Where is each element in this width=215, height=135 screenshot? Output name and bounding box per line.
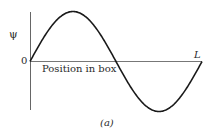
x-axis-label: Position in box — [42, 64, 116, 74]
y-axis-label: ψ — [9, 29, 18, 40]
origin-label: 0 — [21, 56, 27, 66]
end-label: L — [194, 50, 201, 60]
figure-caption: (a) — [100, 118, 114, 128]
